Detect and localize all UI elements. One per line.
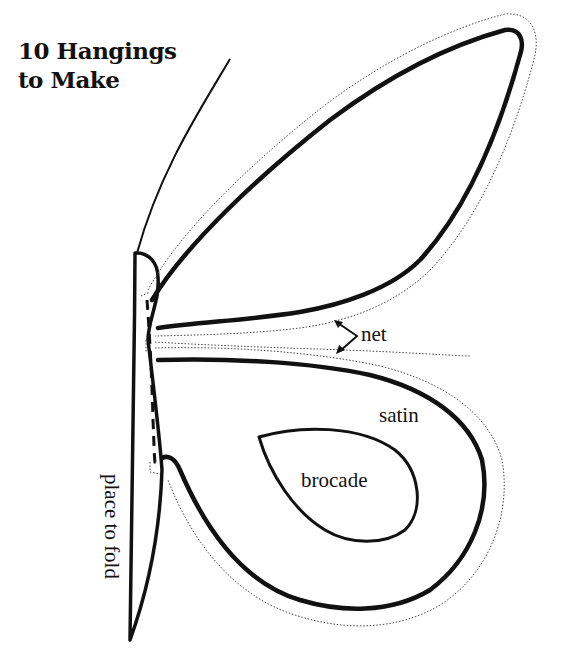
place-to-fold-label: place to fold: [99, 474, 124, 579]
net-band-line: [155, 342, 470, 356]
upper-wing-outline: [152, 30, 522, 328]
body-fold-strip: [130, 253, 162, 640]
net-arrowhead-top: [334, 320, 343, 328]
butterfly-wing-pattern: [0, 0, 561, 655]
brocade-label: brocade: [301, 468, 367, 493]
satin-label: satin: [379, 403, 419, 428]
net-label: net: [361, 322, 387, 347]
